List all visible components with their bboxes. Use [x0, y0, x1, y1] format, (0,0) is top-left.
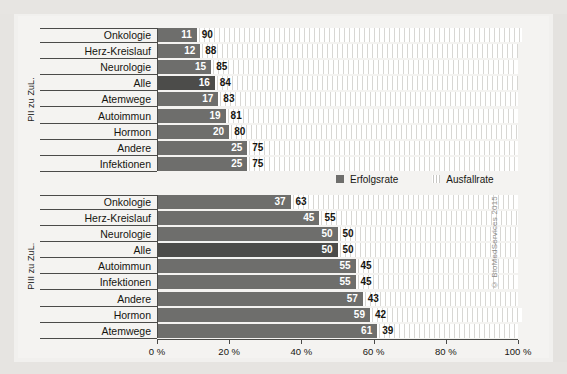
- bar-row: 2575: [157, 157, 518, 171]
- bar-segment-ausfallrate: [218, 92, 518, 106]
- bar-row: 2575: [157, 141, 518, 155]
- group-axis-title: PIII zu ZuL.: [26, 195, 40, 338]
- bar-segment-ausfallrate: [319, 211, 518, 225]
- category-label: Hormon: [29, 308, 151, 322]
- plot-area: 1190128815851684178319812080257525753763…: [157, 16, 518, 358]
- x-axis-tick: [301, 340, 302, 344]
- x-axis-tick-label: 0 %: [149, 346, 165, 357]
- category-label: Hormon: [29, 125, 151, 139]
- bar-value-ausfallrate: 50: [343, 243, 354, 257]
- bar-value-erfolgsrate: 15: [157, 60, 206, 74]
- bar-value-erfolgsrate: 55: [157, 275, 351, 289]
- bar-value-erfolgsrate: 25: [157, 157, 242, 171]
- bar-segment-ausfallrate: [247, 157, 518, 171]
- category-label: Autoimmun: [29, 259, 151, 273]
- bar-value-ausfallrate: 45: [361, 275, 372, 289]
- category-label: Infektionen: [29, 275, 151, 289]
- bar-value-erfolgsrate: 17: [157, 92, 213, 106]
- bar-value-ausfallrate: 75: [252, 141, 263, 155]
- category-axis-line: [157, 28, 158, 171]
- legend-swatch-ausfallrate: [432, 175, 440, 183]
- bar-row: 5743: [157, 292, 518, 306]
- bar-value-ausfallrate: 55: [324, 211, 335, 225]
- bar-segment-ausfallrate: [211, 60, 518, 74]
- bar-value-erfolgsrate: 50: [157, 227, 333, 241]
- bar-row: 5545: [157, 259, 518, 273]
- bar-row: 6139: [157, 324, 518, 338]
- category-tick-line: [40, 257, 157, 258]
- category-tick-line: [40, 306, 157, 307]
- bar-value-ausfallrate: 45: [361, 259, 372, 273]
- category-tick-line: [40, 139, 157, 140]
- bar-value-erfolgsrate: 16: [157, 76, 210, 90]
- bar-value-erfolgsrate: 19: [157, 109, 221, 123]
- group-axis-title: PII zu ZuL.: [26, 28, 40, 171]
- bar-segment-ausfallrate: [377, 324, 518, 338]
- category-tick-line: [40, 338, 157, 339]
- x-axis-tick-label: 20 %: [218, 346, 240, 357]
- bar-value-erfolgsrate: 59: [157, 308, 365, 322]
- legend-item-erfolgsrate: Erfolgsrate: [336, 174, 398, 185]
- bar-row: 5050: [157, 243, 518, 257]
- bar-row: 1684: [157, 76, 518, 90]
- bar-segment-ausfallrate: [291, 195, 518, 209]
- category-axis-line: [157, 195, 158, 338]
- x-axis-tick: [374, 340, 375, 344]
- category-tick-line: [40, 90, 157, 91]
- category-label: Herz-Kreislauf: [29, 44, 151, 58]
- bar-row: 5545: [157, 275, 518, 289]
- x-axis-line: [157, 339, 518, 340]
- bar-value-ausfallrate: 63: [296, 195, 307, 209]
- x-axis-tick-label: 100 %: [505, 346, 532, 357]
- chart-frame: OnkologieHerz-KreislaufNeurologieAlleAte…: [18, 16, 549, 358]
- bar-row: 1288: [157, 44, 518, 58]
- category-label: Andere: [29, 141, 151, 155]
- category-tick-line: [40, 106, 157, 107]
- bar-row: 2080: [157, 125, 518, 139]
- category-tick-line: [40, 42, 157, 43]
- group-separator: [40, 28, 157, 29]
- category-tick-line: [40, 322, 157, 323]
- bar-value-ausfallrate: 84: [220, 76, 231, 90]
- bar-value-ausfallrate: 39: [382, 324, 393, 338]
- bar-value-ausfallrate: 83: [223, 92, 234, 106]
- bar-value-ausfallrate: 50: [343, 227, 354, 241]
- category-tick-line: [40, 123, 157, 124]
- bar-value-ausfallrate: 85: [216, 60, 227, 74]
- category-label: Neurologie: [29, 60, 151, 74]
- category-tick-line: [40, 209, 157, 210]
- x-axis-tick-label: 80 %: [435, 346, 457, 357]
- bar-row: 1783: [157, 92, 518, 106]
- category-label-column: OnkologieHerz-KreislaufNeurologieAlleAte…: [18, 16, 157, 358]
- bar-value-ausfallrate: 75: [252, 157, 263, 171]
- category-label: Atemwege: [29, 324, 151, 338]
- legend-label-erfolgsrate: Erfolgsrate: [350, 174, 398, 185]
- bar-segment-ausfallrate: [363, 292, 518, 306]
- bar-value-ausfallrate: 43: [368, 292, 379, 306]
- category-tick-line: [40, 58, 157, 59]
- bar-value-ausfallrate: 81: [231, 109, 242, 123]
- category-tick-line: [40, 241, 157, 242]
- group-separator: [40, 195, 157, 196]
- bar-value-erfolgsrate: 55: [157, 259, 351, 273]
- x-axis-tick: [446, 340, 447, 344]
- category-tick-line: [40, 171, 157, 172]
- bar-segment-ausfallrate: [229, 125, 518, 139]
- category-label: Alle: [29, 243, 151, 257]
- bar-value-erfolgsrate: 25: [157, 141, 242, 155]
- bar-value-ausfallrate: 80: [234, 125, 245, 139]
- bar-segment-ausfallrate: [226, 109, 518, 123]
- bar-row: 1190: [157, 28, 518, 42]
- category-label: Autoimmun: [29, 109, 151, 123]
- bar-value-erfolgsrate: 20: [157, 125, 224, 139]
- bar-value-erfolgsrate: 57: [157, 292, 358, 306]
- x-axis-tick-label: 40 %: [291, 346, 313, 357]
- category-label: Onkologie: [29, 28, 151, 42]
- bar-row: 5050: [157, 227, 518, 241]
- category-tick-line: [40, 155, 157, 156]
- legend-label-ausfallrate: Ausfallrate: [446, 174, 493, 185]
- bar-segment-ausfallrate: [200, 44, 518, 58]
- category-label: Infektionen: [29, 157, 151, 171]
- bar-segment-ausfallrate: [197, 28, 522, 42]
- bar-row: 5942: [157, 308, 518, 322]
